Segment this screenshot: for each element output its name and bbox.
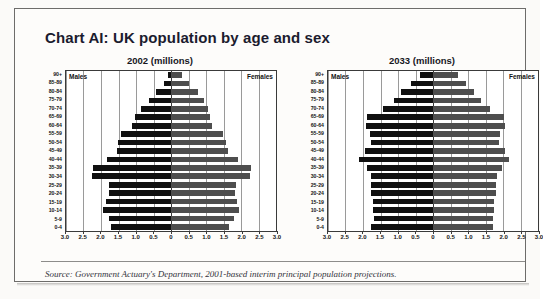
bar-row: [328, 96, 538, 104]
x-axis-tick: [433, 231, 434, 234]
y-axis-tick-label: 15-19: [49, 200, 62, 205]
bar-male-2002: [92, 173, 171, 179]
bar-male-2033: [401, 89, 433, 95]
y-axis-tick-label: 75-79: [49, 97, 62, 102]
chart-title-2033: 2033 (millions): [303, 55, 541, 66]
x-axis-tick: [171, 231, 172, 234]
y-axis-tick-label: 10-14: [311, 208, 324, 213]
bar-female-2002: [171, 106, 208, 112]
bar-female-2002: [171, 199, 237, 205]
bar-male-2033: [366, 123, 433, 129]
x-axis-tick-label: 0: [169, 234, 172, 240]
bar-row: [66, 105, 276, 113]
x-axis-tick: [504, 231, 505, 234]
bar-male-2033: [371, 173, 433, 179]
bar-male-2033: [373, 207, 433, 213]
x-axis-labels-2002: 3.02.52.01.51.00.500.51.01.52.02.53.0: [65, 234, 277, 246]
x-axis-tick: [83, 231, 84, 234]
bar-row: [328, 79, 538, 87]
y-axis-tick-label: 60-64: [49, 123, 62, 128]
bar-male-2033: [359, 157, 433, 163]
bar-male-2002: [164, 81, 171, 87]
bar-row: [328, 147, 538, 155]
bar-female-2033: [433, 123, 505, 129]
bar-row: [328, 130, 538, 138]
x-axis-tick-label: 2.5: [340, 234, 348, 240]
y-axis-tick-label: 40-44: [49, 157, 62, 162]
bar-female-2002: [171, 224, 229, 230]
x-axis-tick-label: 2.5: [517, 234, 525, 240]
bar-row: [66, 88, 276, 96]
bar-female-2002: [171, 72, 182, 78]
plot-area-2033: Males Females: [327, 70, 539, 232]
bar-male-2002: [109, 216, 171, 222]
y-axis-tick-label: 35-39: [49, 165, 62, 170]
bar-female-2033: [433, 106, 490, 112]
y-axis-tick-label: 80-84: [311, 89, 324, 94]
chart-frame: Chart AI: UK population by age and sex 2…: [14, 8, 526, 282]
y-axis-tick-label: 90+: [315, 72, 324, 77]
y-axis-tick-label: 50-54: [311, 140, 324, 145]
x-axis-tick: [415, 231, 416, 234]
bar-male-2033: [383, 106, 433, 112]
bar-row: [328, 138, 538, 146]
bar-row: [328, 197, 538, 205]
bar-male-2002: [103, 207, 171, 213]
bar-row: [66, 155, 276, 163]
bar-row: [328, 214, 538, 222]
bar-male-2033: [411, 81, 433, 87]
page-shadow: [17, 283, 529, 286]
plot-area-2002: Males Females: [65, 70, 277, 232]
y-axis-tick-label: 10-14: [49, 208, 62, 213]
x-axis-tick-label: 2.0: [358, 234, 366, 240]
x-axis-tick-label: 1.5: [114, 234, 122, 240]
x-axis-tick: [136, 231, 137, 234]
bar-male-2033: [371, 182, 433, 188]
x-axis-tick: [362, 231, 363, 234]
x-axis-tick: [380, 231, 381, 234]
y-axis-tick-label: 5-9: [317, 217, 325, 222]
x-axis-tick: [398, 231, 399, 234]
bar-male-2033: [420, 72, 433, 78]
x-axis-tick-label: 0.5: [411, 234, 419, 240]
x-axis-tick: [206, 231, 207, 234]
x-axis-tick: [259, 231, 260, 234]
bar-male-2002: [109, 182, 171, 188]
bar-female-2002: [171, 89, 198, 95]
x-axis-tick: [224, 231, 225, 234]
bar-female-2033: [433, 89, 474, 95]
bar-male-2033: [367, 165, 433, 171]
bar-male-2033: [371, 224, 433, 230]
y-axis-tick-label: 70-74: [311, 106, 324, 111]
bar-female-2033: [433, 173, 497, 179]
y-axis-tick-label: 5-9: [55, 217, 63, 222]
x-axis-tick: [451, 231, 452, 234]
x-axis-tick: [100, 231, 101, 234]
bar-male-2002: [132, 123, 171, 129]
bar-female-2002: [171, 140, 226, 146]
x-axis-labels-2033: 3.02.52.01.51.00.500.51.01.52.02.53.0: [327, 234, 539, 246]
bar-female-2033: [433, 140, 499, 146]
bar-row: [328, 155, 538, 163]
x-axis-tick-label: 1.0: [131, 234, 139, 240]
bar-female-2002: [171, 173, 250, 179]
bar-row: [66, 164, 276, 172]
y-axis-tick-label: 20-24: [311, 191, 324, 196]
x-axis-tick-label: 0.5: [446, 234, 454, 240]
bar-row: [328, 88, 538, 96]
bar-row: [66, 113, 276, 121]
bar-female-2033: [433, 98, 481, 104]
bar-female-2033: [433, 199, 494, 205]
y-axis-tick-label: 55-59: [49, 131, 62, 136]
bar-row: [328, 206, 538, 214]
y-axis-tick-label: 65-69: [311, 114, 324, 119]
x-axis-tick-label: 2.0: [237, 234, 245, 240]
bar-row: [328, 172, 538, 180]
bar-row: [66, 172, 276, 180]
bar-row: [328, 122, 538, 130]
x-axis-tick-label: 3.0: [61, 234, 69, 240]
bar-female-2033: [433, 182, 496, 188]
bar-male-2002: [93, 165, 171, 171]
bar-male-2033: [371, 190, 433, 196]
y-axis-tick-label: 50-54: [49, 140, 62, 145]
